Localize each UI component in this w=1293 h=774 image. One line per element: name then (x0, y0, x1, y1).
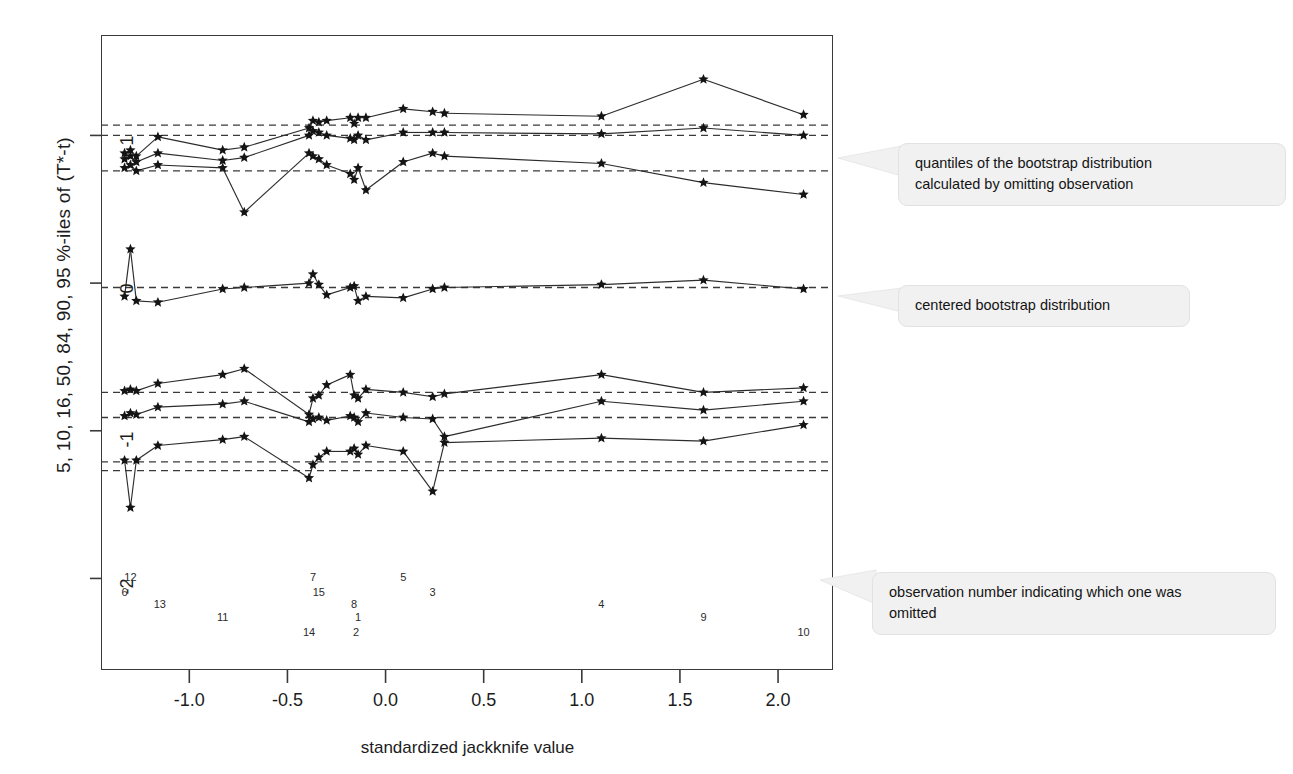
callout-obsnum-line1: observation number indicating which one … (889, 582, 1261, 603)
jackknife-after-bootstrap-figure: 5, 10, 16, 50, 84, 90, 95 %-iles of (T*-… (0, 0, 1293, 774)
callout-tail-obsnum (0, 0, 1293, 774)
callout-obsnum-line2: omitted (889, 603, 1261, 624)
callout-obsnum-note: observation number indicating which one … (872, 572, 1276, 635)
